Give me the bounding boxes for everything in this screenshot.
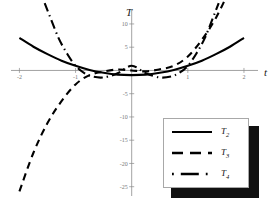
legend-item-t3: T3 <box>164 143 248 163</box>
x-axis-label: t <box>264 66 268 78</box>
svg-text:-1: -1 <box>73 74 78 80</box>
legend-item-t4: T4 <box>164 164 248 184</box>
svg-text:2: 2 <box>242 74 245 80</box>
legend-swatch-solid-icon <box>170 126 214 138</box>
svg-text:1: 1 <box>186 74 189 80</box>
svg-text:5: 5 <box>125 44 128 50</box>
legend-item-t2: T2 <box>164 122 248 142</box>
svg-text:-2: -2 <box>17 74 22 80</box>
svg-text:10: 10 <box>122 21 128 27</box>
svg-text:-20: -20 <box>120 161 128 167</box>
legend: T2 T3 T4 <box>163 118 251 190</box>
svg-text:-15: -15 <box>120 137 128 143</box>
svg-text:-25: -25 <box>120 184 128 190</box>
legend-label-t4: T4 <box>221 168 229 180</box>
legend-label-t2: T2 <box>221 126 229 138</box>
svg-text:-10: -10 <box>120 114 128 120</box>
y-axis-label: T <box>126 6 133 18</box>
chart-figure: -2-112105-5-10-15-20-25 T t T2 T3 <box>0 0 274 210</box>
svg-text:-5: -5 <box>123 91 128 97</box>
legend-swatch-dashed-icon <box>170 147 214 159</box>
legend-box: T2 T3 T4 <box>163 118 249 188</box>
legend-label-t3: T3 <box>221 147 229 159</box>
legend-swatch-dashdot-icon <box>170 168 214 180</box>
